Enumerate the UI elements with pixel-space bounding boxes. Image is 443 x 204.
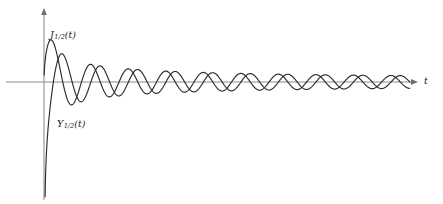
label-j-argument: (t) — [65, 29, 76, 40]
vertical-axis-arrowhead — [41, 8, 47, 15]
curve-j-half — [44, 40, 410, 105]
label-y-subscript: 1/2 — [63, 122, 74, 130]
horizontal-axis-arrowhead — [411, 79, 418, 85]
label-j-subscript: 1/2 — [54, 33, 65, 41]
axis-label-t: t — [424, 76, 428, 86]
bessel-function-figure: J1/2(t) Y1/2(t) t — [0, 0, 443, 204]
curves-group — [44, 40, 410, 197]
label-y-half: Y1/2(t) — [57, 119, 86, 130]
label-j-half: J1/2(t) — [50, 30, 76, 41]
label-y-argument: (t) — [74, 118, 85, 129]
